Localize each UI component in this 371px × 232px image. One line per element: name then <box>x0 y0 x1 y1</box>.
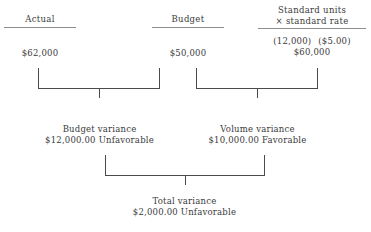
value-actual: $62,000 <box>4 48 76 59</box>
total-variance-amount: $2,000.00 Unfavorable <box>114 207 255 218</box>
column-header-actual-rule <box>4 27 76 28</box>
standard-rate-value: ($5.00) <box>318 36 350 46</box>
bracket-total-variance <box>105 155 265 176</box>
column-header-standard: Standard units × standard rate <box>258 5 366 31</box>
value-standard: $60,000 <box>258 47 366 58</box>
stem-budget-variance <box>99 89 100 98</box>
volume-variance-name: Volume variance <box>220 124 294 134</box>
value-standard-group: (12,000)($5.00) $60,000 <box>258 36 366 57</box>
volume-variance-block: Volume variance $10,000.00 Favorable <box>187 124 328 145</box>
column-header-standard-rule <box>258 28 366 29</box>
column-header-standard-line1: Standard units <box>278 5 346 15</box>
variance-analysis-diagram: Actual Budget Standard units × standard … <box>0 0 371 232</box>
budget-variance-amount: $12,000.00 Unfavorable <box>29 135 170 146</box>
budget-variance-name: Budget variance <box>63 124 137 134</box>
column-header-budget: Budget <box>152 14 224 30</box>
budget-variance-block: Budget variance $12,000.00 Unfavorable <box>29 124 170 145</box>
total-variance-block: Total variance $2,000.00 Unfavorable <box>114 196 255 217</box>
column-header-standard-line2: × standard rate <box>258 16 366 27</box>
value-budget: $50,000 <box>152 48 224 59</box>
stem-volume-variance <box>257 89 258 98</box>
column-header-actual-label: Actual <box>25 14 54 24</box>
standard-factors: (12,000)($5.00) <box>258 36 366 47</box>
column-header-budget-label: Budget <box>172 14 205 24</box>
bracket-budget-variance <box>38 68 160 89</box>
total-variance-name: Total variance <box>153 196 217 206</box>
volume-variance-amount: $10,000.00 Favorable <box>187 135 328 146</box>
standard-units-value: (12,000) <box>273 36 311 46</box>
stem-total-variance <box>185 176 186 185</box>
bracket-volume-variance <box>196 68 318 89</box>
column-header-budget-rule <box>152 27 224 28</box>
column-header-actual: Actual <box>4 14 76 30</box>
